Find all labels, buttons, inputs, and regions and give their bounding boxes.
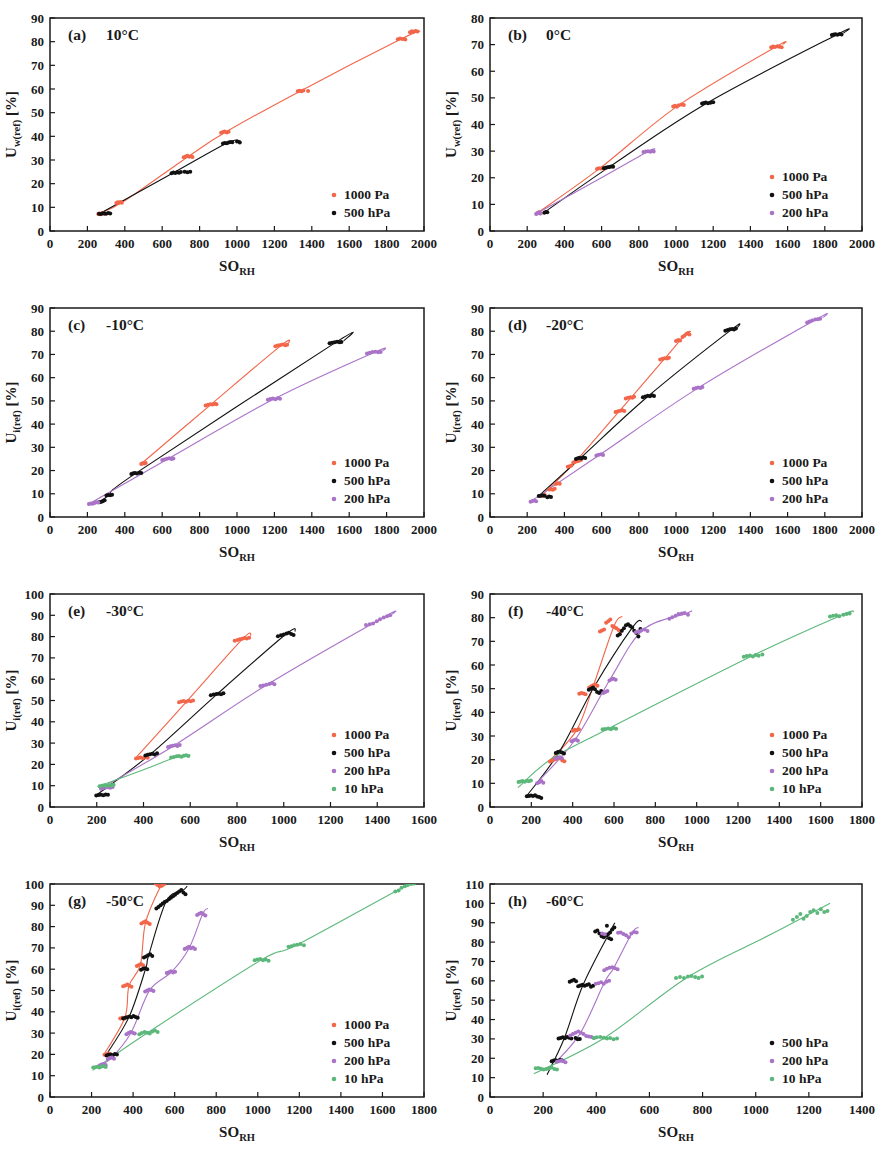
x-axis-title: SORH (658, 544, 694, 563)
x-tick-label: 0 (487, 812, 494, 827)
x-tick-label: 1400 (299, 236, 325, 251)
y-tick-label: 0 (38, 224, 45, 239)
legend-marker (332, 787, 337, 792)
y-tick-label: 10 (471, 486, 484, 501)
panel-tag: (g) (68, 892, 86, 910)
x-tick-label: 2000 (849, 522, 875, 537)
panel-c: 0200400600800100012001400160018002000010… (0, 290, 440, 575)
panel-d: 0200400600800100012001400160018002000010… (440, 290, 878, 575)
legend-label: 10 hPa (782, 1071, 822, 1086)
y-tick-label: 0 (478, 1090, 485, 1105)
y-tick-label: 70 (31, 650, 44, 665)
legend-label: 500 hPa (782, 187, 828, 202)
plot-area-d: 0200400600800100012001400160018002000010… (440, 290, 878, 575)
legend-label: 10 hPa (344, 781, 384, 796)
legend-marker (770, 1041, 775, 1046)
x-tick-label: 1600 (775, 522, 801, 537)
svg-text:SORH: SORH (219, 544, 255, 563)
y-tick-label: 100 (25, 877, 45, 892)
panel-tag: (f) (508, 602, 524, 620)
y-tick-label: 60 (471, 64, 484, 79)
y-tick-label: 50 (471, 90, 484, 105)
legend-marker (770, 787, 775, 792)
x-tick-label: 800 (190, 236, 210, 251)
legend-marker (332, 193, 337, 198)
y-tick-label: 60 (471, 973, 484, 988)
y-tick-label: 100 (25, 587, 45, 602)
y-tick-label: 80 (471, 324, 484, 339)
x-tick-label: 1600 (336, 522, 362, 537)
x-tick-label: 0 (47, 1102, 54, 1117)
x-tick-label: 0 (47, 522, 54, 537)
y-tick-label: 10 (31, 1068, 44, 1083)
y-tick-label: 20 (31, 757, 44, 772)
svg-text:SORH: SORH (658, 544, 694, 563)
y-tick-label: 60 (471, 370, 484, 385)
x-tick-label: 400 (115, 236, 135, 251)
y-tick-label: 40 (31, 1004, 44, 1019)
y-tick-label: 20 (31, 176, 44, 191)
x-tick-label: 800 (227, 812, 247, 827)
panel-a: 0200400600800100012001400160018002000010… (0, 0, 440, 289)
x-tick-label: 600 (592, 522, 612, 537)
panel-title: -30°C (106, 602, 144, 619)
legend-marker (770, 479, 775, 484)
y-tick-label: 90 (31, 11, 44, 26)
y-tick-label: 10 (31, 778, 44, 793)
legend-marker (770, 461, 775, 466)
x-tick-label: 2000 (849, 236, 875, 251)
x-axis-title: SORH (219, 258, 255, 277)
x-tick-label: 0 (487, 1102, 494, 1117)
x-tick-label: 1000 (743, 1102, 769, 1117)
x-tick-label: 600 (152, 236, 172, 251)
panel-title: -20°C (546, 316, 584, 333)
panel-h: 0200400600800100012001400010203040506070… (440, 866, 878, 1155)
x-tick-label: 1600 (808, 812, 834, 827)
x-tick-label: 0 (47, 236, 54, 251)
y-tick-label: 10 (471, 776, 484, 791)
legend-label: 200 hPa (782, 205, 828, 220)
y-tick-label: 60 (31, 962, 44, 977)
y-tick-label: 20 (471, 463, 484, 478)
svg-text:SORH: SORH (219, 834, 255, 853)
x-tick-label: 1600 (775, 236, 801, 251)
legend-marker (332, 479, 337, 484)
legend-marker (332, 1041, 337, 1046)
legend-label: 500 hPa (782, 1035, 828, 1050)
y-tick-label: 30 (31, 153, 44, 168)
y-axis-title: Uw(ref) [%] (3, 91, 23, 158)
y-tick-label: 80 (471, 935, 484, 950)
y-tick-label: 60 (31, 672, 44, 687)
panel-title: -50°C (106, 892, 144, 909)
legend-label: 1000 Pa (344, 455, 390, 470)
x-tick-label: 1200 (261, 236, 287, 251)
x-tick-label: 800 (629, 522, 649, 537)
svg-text:SORH: SORH (219, 1124, 255, 1143)
x-tick-label: 1000 (684, 812, 710, 827)
x-tick-label: 1800 (812, 522, 838, 537)
y-tick-label: 30 (471, 1031, 484, 1046)
plot-area-h: 0200400600800100012001400010203040506070… (440, 866, 878, 1155)
y-tick-label: 10 (31, 486, 44, 501)
y-tick-label: 20 (471, 170, 484, 185)
legend-label: 1000 Pa (782, 727, 828, 742)
y-tick-label: 70 (471, 347, 484, 362)
y-tick-label: 90 (31, 301, 44, 316)
y-tick-label: 30 (31, 736, 44, 751)
legend-marker (332, 497, 337, 502)
svg-text:Ui(ref) [%]: Ui(ref) [%] (443, 381, 463, 443)
x-tick-label: 1800 (812, 236, 838, 251)
panel-title: -40°C (546, 602, 584, 619)
x-axis-title: SORH (658, 1124, 694, 1143)
x-tick-label: 1400 (737, 522, 763, 537)
y-tick-label: 30 (31, 440, 44, 455)
x-tick-label: 200 (87, 812, 107, 827)
x-axis-title: SORH (219, 544, 255, 563)
legend-marker (332, 733, 337, 738)
plot-area-b: 0200400600800100012001400160018002000010… (440, 0, 878, 289)
legend-marker (332, 1059, 337, 1064)
legend-marker (770, 175, 775, 180)
legend-label: 200 hPa (344, 763, 390, 778)
y-tick-label: 40 (471, 417, 484, 432)
svg-text:Ui(ref) [%]: Ui(ref) [%] (3, 381, 23, 443)
